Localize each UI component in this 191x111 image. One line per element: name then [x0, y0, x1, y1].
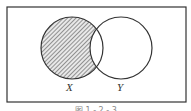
venn-diagram: X Y 图 1 - 2 - 3: [0, 0, 191, 111]
figure-caption: 图 1 - 2 - 3: [75, 106, 117, 111]
set-x-label: X: [65, 81, 74, 93]
